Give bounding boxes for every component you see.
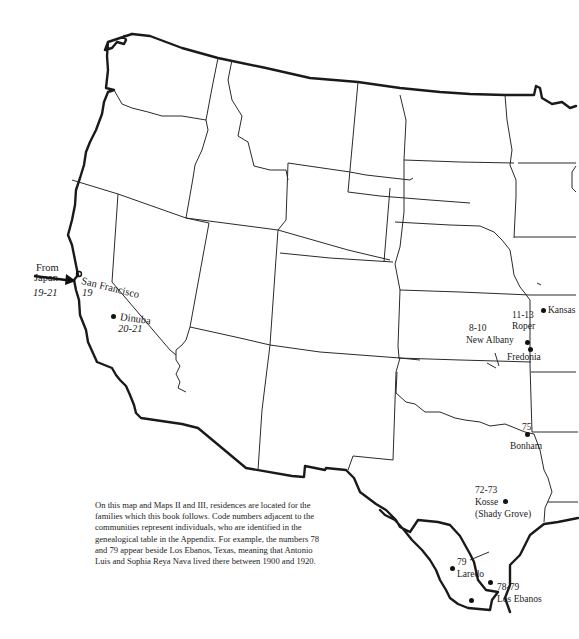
los-ebanos-codes: 78-79 [497,581,519,593]
kosse-marker [503,499,508,504]
kosse-label: Kosse [475,496,498,508]
map-caption: On this map and Maps II and III, residen… [95,500,325,567]
laredo-codes: 79 [457,556,467,568]
dinuba-marker [111,314,116,319]
japan-label: Japan [34,272,58,284]
los-ebanos-marker-1 [488,580,493,585]
roper-marker [525,340,530,345]
kansas-marker [541,308,546,313]
state-borders [72,58,578,560]
bonham-marker [525,432,530,437]
dinuba-codes: 20-21 [118,323,143,335]
new-albany-codes: 8-10 [469,322,486,334]
kansas-label: Kansas [548,304,575,316]
japan-codes: 19-21 [33,287,58,299]
bonham-label: Bonham [510,440,542,452]
los-ebanos-marker-2 [469,598,474,603]
laredo-label: Laredo [457,568,484,580]
san-francisco-codes: 19 [82,287,93,299]
los-ebanos-label: Los Ebanos [497,593,542,605]
new-albany-label: New Albany [466,334,514,346]
fredonia-label: Fredonia [507,351,541,363]
canada-border [132,34,576,108]
shady-grove-label: (Shady Grove) [475,508,531,520]
kosse-codes: 72-73 [475,484,497,496]
roper-label: Roper [512,320,535,332]
laredo-marker [450,566,455,571]
